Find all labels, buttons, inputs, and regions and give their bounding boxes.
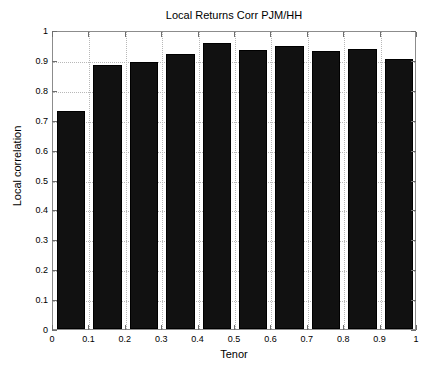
y-tick-mark-right: [411, 91, 416, 92]
y-tick-mark-right: [411, 330, 416, 331]
y-tick-mark-right: [411, 240, 416, 241]
y-tick-mark: [52, 181, 57, 182]
bar-series: [53, 32, 415, 329]
x-tick-mark-top: [380, 32, 381, 37]
y-tick-label: 0.1: [35, 295, 48, 305]
x-tick-label: 0.2: [119, 334, 132, 345]
x-tick-label: 0.4: [191, 334, 204, 345]
y-tick-mark: [52, 210, 57, 211]
y-tick-label: 0.5: [35, 176, 48, 186]
x-tick-mark: [88, 325, 89, 330]
y-tick-mark-right: [411, 61, 416, 62]
y-tick-mark: [52, 330, 57, 331]
x-tick-mark: [343, 325, 344, 330]
x-tick-label: 0.1: [82, 334, 95, 345]
bar: [239, 50, 267, 329]
bar: [385, 59, 413, 329]
bar: [130, 62, 158, 329]
y-tick-label: 0.8: [35, 86, 48, 96]
x-tick-mark: [125, 325, 126, 330]
y-tick-mark: [52, 91, 57, 92]
x-tick-label: 0.8: [337, 334, 350, 345]
x-tick-mark: [161, 325, 162, 330]
x-tick-mark-top: [52, 32, 53, 37]
chart-figure: Local Returns Corr PJM/HH Local correlat…: [0, 0, 438, 373]
y-tick-label: 0.6: [35, 146, 48, 156]
chart-title: Local Returns Corr PJM/HH: [52, 9, 416, 22]
bar: [275, 46, 303, 329]
x-tick-mark: [198, 325, 199, 330]
x-tick-label: 1: [413, 334, 418, 345]
y-tick-mark: [52, 300, 57, 301]
y-tick-label: 0.3: [35, 235, 48, 245]
bar: [57, 111, 85, 329]
bar: [93, 65, 121, 329]
plot-area: [52, 31, 416, 330]
y-tick-label: 0: [43, 325, 48, 335]
bar: [166, 54, 194, 329]
x-tick-mark-top: [343, 32, 344, 37]
bar: [312, 51, 340, 329]
x-tick-mark: [307, 325, 308, 330]
bar: [203, 43, 231, 329]
y-tick-mark-right: [411, 210, 416, 211]
y-tick-mark-right: [411, 300, 416, 301]
y-tick-mark-right: [411, 181, 416, 182]
y-tick-mark: [52, 151, 57, 152]
y-tick-mark-right: [411, 121, 416, 122]
x-tick-mark-top: [307, 32, 308, 37]
y-tick-mark: [52, 240, 57, 241]
x-tick-mark: [234, 325, 235, 330]
x-tick-mark-top: [88, 32, 89, 37]
x-tick-mark-top: [161, 32, 162, 37]
x-axis-label: Tenor: [52, 348, 416, 361]
x-tick-mark: [380, 325, 381, 330]
y-tick-label: 0.7: [35, 116, 48, 126]
x-axis-tick-labels: 00.10.20.30.40.50.60.70.80.91: [52, 334, 416, 346]
y-tick-label: 0.2: [35, 265, 48, 275]
y-tick-mark-right: [411, 270, 416, 271]
y-tick-mark-right: [411, 151, 416, 152]
x-tick-label: 0.7: [301, 334, 314, 345]
x-tick-mark: [416, 325, 417, 330]
x-tick-label: 0.6: [264, 334, 277, 345]
bar: [348, 49, 376, 329]
x-tick-mark-top: [198, 32, 199, 37]
x-tick-label: 0.5: [228, 334, 241, 345]
x-tick-label: 0: [49, 334, 54, 345]
y-axis-tick-labels: 00.10.20.30.40.50.60.70.80.91: [14, 31, 48, 330]
x-tick-mark-top: [416, 32, 417, 37]
y-tick-label: 0.4: [35, 205, 48, 215]
x-tick-mark-top: [125, 32, 126, 37]
y-tick-label: 1: [43, 26, 48, 36]
y-tick-mark: [52, 61, 57, 62]
y-tick-label: 0.9: [35, 56, 48, 66]
x-tick-label: 0.9: [373, 334, 386, 345]
x-tick-mark: [270, 325, 271, 330]
x-tick-mark: [52, 325, 53, 330]
x-tick-label: 0.3: [155, 334, 168, 345]
y-tick-mark: [52, 121, 57, 122]
x-tick-mark-top: [270, 32, 271, 37]
y-tick-mark: [52, 270, 57, 271]
x-tick-mark-top: [234, 32, 235, 37]
